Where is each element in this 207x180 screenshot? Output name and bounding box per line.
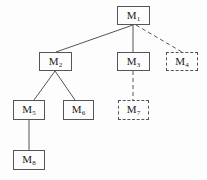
edge-m2-m5 [34, 71, 55, 100]
node-m5: M5 [13, 100, 45, 120]
edge-m1-m4 [136, 25, 182, 52]
node-m3-label: M3 [127, 55, 140, 69]
node-m7-label: M7 [127, 103, 140, 117]
node-m8: M8 [13, 150, 45, 170]
node-m6-label: M6 [72, 103, 85, 117]
node-m3: M3 [117, 52, 150, 71]
node-m4: M4 [166, 52, 198, 71]
node-m2-label: M2 [49, 55, 62, 69]
node-m5-label: M5 [22, 103, 35, 117]
node-m1: M1 [117, 6, 150, 25]
node-m8-label: M8 [22, 153, 35, 167]
edge-m1-m2 [56, 25, 133, 52]
node-m2: M2 [39, 52, 72, 71]
node-m4-label: M4 [175, 55, 188, 69]
node-m1-label: M1 [127, 9, 140, 23]
edge-m2-m6 [55, 71, 75, 100]
node-m6: M6 [63, 100, 94, 120]
node-m7: M7 [118, 100, 149, 120]
